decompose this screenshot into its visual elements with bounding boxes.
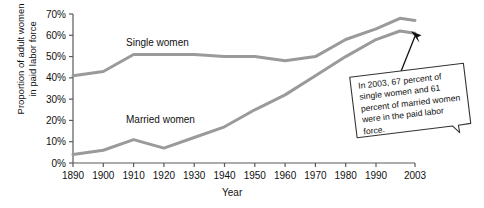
x-axis-tick-label: 1920 — [153, 170, 176, 181]
y-axis-tick-label: 10% — [46, 136, 66, 147]
y-axis-tick-label: 0% — [52, 158, 67, 169]
x-axis-tick-label: 1930 — [183, 170, 206, 181]
x-axis-tick-label: 1910 — [122, 170, 145, 181]
y-axis-title: Proportion of adult women in paid labor … — [15, 0, 41, 129]
chart-figure: 0%10%20%30%40%50%60%70%18901900191019201… — [0, 0, 484, 208]
callout-text: In 2003, 67 percent of single women and … — [358, 70, 464, 138]
y-axis-tick-label: 50% — [46, 51, 66, 62]
x-axis-tick-label: 2003 — [404, 170, 427, 181]
annotation-callout: In 2003, 67 percent of single women and … — [348, 62, 474, 153]
y-axis-tick-label: 30% — [46, 94, 66, 105]
x-axis-tick-label: 1950 — [244, 170, 267, 181]
series-label-married-women: Married women — [126, 114, 195, 125]
x-axis-tick-label: 1980 — [335, 170, 358, 181]
x-axis-tick-label: 1900 — [92, 170, 115, 181]
x-axis-tick-label: 1970 — [304, 170, 327, 181]
y-axis-title-line2: in paid labor force — [27, 0, 39, 129]
x-axis-tick-label: 1960 — [274, 170, 297, 181]
y-axis-tick-label: 20% — [46, 115, 66, 126]
y-axis-tick-label: 60% — [46, 30, 66, 41]
x-axis-tick-label: 1990 — [365, 170, 388, 181]
x-axis-title: Year — [222, 187, 242, 198]
y-axis-tick-label: 40% — [46, 72, 66, 83]
x-axis-tick-label: 1940 — [213, 170, 236, 181]
x-axis-tick-label: 1890 — [62, 170, 85, 181]
series-label-single-women: Single women — [126, 37, 189, 48]
y-axis-tick-label: 70% — [46, 9, 66, 20]
y-axis-title-line1: Proportion of adult women — [15, 0, 27, 129]
